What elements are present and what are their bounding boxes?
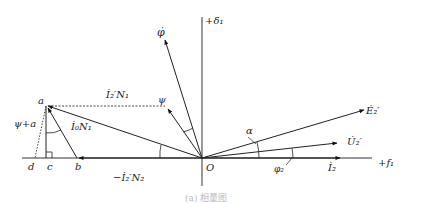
I2-label: İ₂ <box>327 162 336 173</box>
E2-label: Ė₂′ <box>365 105 380 116</box>
angle-arc-phi-psi <box>183 128 193 132</box>
I0N1-label: İ₀N₁ <box>70 121 92 132</box>
angle-arc-alpha <box>257 142 259 158</box>
angle-arc-at-a <box>46 130 61 133</box>
I2N1-label: İ₂′N₁ <box>105 89 129 100</box>
figure-caption: (a) 相量图 <box>185 192 227 203</box>
origin-label: O <box>206 162 214 173</box>
minus-I2N2-label: −İ₂′N₂ <box>113 172 144 183</box>
phi2-leader <box>286 158 292 165</box>
right-angle-mark <box>46 152 52 158</box>
segment-ad-dotted <box>35 106 46 158</box>
angle-arc-Oa <box>160 145 161 158</box>
point-a-label: a <box>38 95 44 106</box>
psi-label: ψ <box>158 94 166 105</box>
horizontal-axis-label: +f₁ <box>378 157 394 168</box>
point-c-label: c <box>47 161 53 172</box>
vector-U2 <box>202 143 337 158</box>
U2-label: U̇₂′ <box>347 136 362 147</box>
vector-E2 <box>202 110 364 158</box>
vector-psi <box>168 109 202 158</box>
phasor-diagram: +δ₁ +f₁ O φ̇ ψ Ė₂′ U̇₂′ İ₂ İ₂′N₁ İ₀N₁ −İ… <box>0 0 432 203</box>
phi2-label: φ₂ <box>274 164 284 174</box>
vertical-axis-label: +δ₁ <box>205 15 223 26</box>
vector-Oa <box>48 106 202 158</box>
alpha-label: α <box>246 125 253 136</box>
angle-arc-phi2 <box>292 148 293 158</box>
point-d-label: d <box>28 161 34 172</box>
point-b-label: b <box>75 161 81 172</box>
psi-plus-a-label: ψ+a <box>14 118 36 129</box>
phi-label: φ̇ <box>157 26 165 39</box>
vector-phi <box>165 40 202 158</box>
